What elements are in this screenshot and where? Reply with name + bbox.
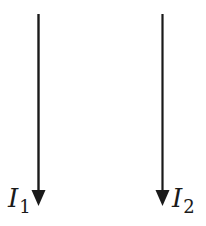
- current-label-1-symbol: I: [8, 183, 18, 213]
- current-label-1-subscript: 1: [19, 196, 30, 217]
- diagram-canvas: I1 I2: [0, 0, 206, 226]
- wire-2: [156, 14, 170, 206]
- current-label-2-symbol: I: [172, 183, 182, 213]
- current-label-2-subscript: 2: [183, 196, 194, 217]
- current-label-2: I2: [172, 185, 195, 216]
- current-label-1: I1: [8, 185, 31, 216]
- wire-2-arrowhead-icon: [156, 190, 170, 206]
- wire-1-arrowhead-icon: [32, 190, 46, 206]
- wire-1: [32, 14, 46, 206]
